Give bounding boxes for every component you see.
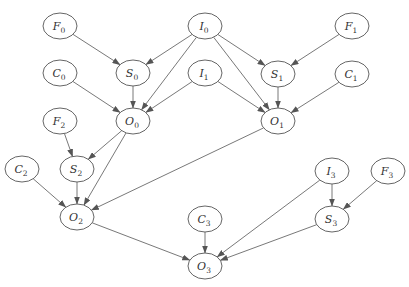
node-f1: F1	[335, 13, 369, 39]
arrow-icon	[73, 34, 120, 64]
edge-c1-to-o1	[291, 82, 339, 112]
edge-s3-to-o3	[220, 225, 316, 261]
edge-f2-to-s2	[64, 134, 72, 157]
arrow-icon	[343, 181, 376, 210]
edge-i1-to-o0	[146, 82, 192, 113]
edge-f3-to-s3	[343, 181, 376, 210]
node-f0: F0	[43, 13, 77, 39]
edge-i0-to-s0	[146, 34, 192, 64]
arrow-icon	[291, 34, 339, 65]
node-o3: O3	[188, 253, 222, 279]
dependency-graph: F0I0F1C0S0I1S1C1F2O0O1C2S2I3F3O2C3S3O3	[0, 0, 409, 287]
edge-o0-to-s2	[88, 131, 121, 160]
arrow-icon	[218, 34, 265, 65]
node-i1: I1	[188, 60, 222, 86]
edge-c0-to-o0	[73, 81, 120, 112]
node-c2: C2	[5, 156, 39, 182]
edge-o1-to-o2	[91, 128, 263, 210]
node-s1: S1	[261, 61, 295, 87]
node-c1: C1	[335, 61, 369, 87]
node-o1: O1	[261, 108, 295, 134]
edge-f0-to-s0	[73, 34, 120, 64]
node-f3: F3	[371, 158, 405, 184]
node-s0: S0	[116, 60, 150, 86]
arrow-icon	[146, 82, 192, 113]
arrow-icon	[217, 180, 320, 257]
edge-c2-to-o2	[33, 179, 66, 207]
node-f2: F2	[43, 108, 77, 134]
node-c0: C0	[43, 60, 77, 86]
arrow-icon	[218, 81, 265, 112]
node-i3: I3	[315, 158, 349, 184]
arrow-icon	[33, 179, 66, 207]
edge-i3-to-o3	[217, 180, 320, 257]
arrow-icon	[91, 128, 263, 210]
arrow-icon	[291, 82, 339, 112]
node-i0: I0	[188, 13, 222, 39]
node-o0: O0	[116, 108, 150, 134]
node-c3: C3	[188, 206, 222, 232]
edge-i0-to-s1	[218, 34, 265, 65]
node-s3: S3	[315, 206, 349, 232]
arrow-icon	[88, 131, 121, 160]
node-o2: O2	[60, 204, 94, 230]
arrow-icon	[73, 81, 120, 112]
arrow-icon	[64, 134, 72, 157]
arrow-icon	[146, 34, 192, 64]
node-s2: S2	[60, 156, 94, 182]
arrow-icon	[220, 225, 316, 261]
edge-f1-to-s1	[291, 34, 339, 65]
arrow-icon	[92, 223, 190, 260]
edge-o2-to-o3	[92, 223, 190, 260]
edge-i1-to-o1	[218, 81, 265, 112]
